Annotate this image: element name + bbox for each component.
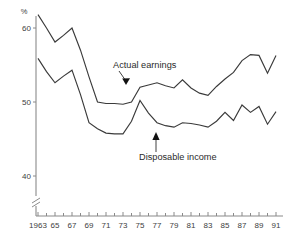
annotation-label-disposable-income: Disposable income	[139, 152, 217, 162]
axis-break-icon	[32, 198, 40, 207]
annotation-disposable-income: Disposable income	[139, 132, 217, 162]
x-tick-label-73: 73	[119, 221, 128, 230]
annotation-actual-earnings: Actual earnings	[113, 60, 177, 85]
y-axis-unit-label: %	[21, 7, 28, 16]
x-tick-label-89: 89	[255, 221, 264, 230]
annotation-label-actual-earnings: Actual earnings	[113, 60, 177, 70]
y-tick-label-40: 40	[22, 172, 31, 181]
x-tick-label-83: 83	[204, 221, 213, 230]
y-tick-label-50: 50	[22, 98, 31, 107]
line-chart: % 60 50 40 19636567697173757779818385878…	[0, 0, 289, 239]
x-tick-label-69: 69	[85, 221, 94, 230]
x-tick-label-75: 75	[136, 221, 145, 230]
x-tick-label-79: 79	[170, 221, 179, 230]
annotation-arrow-disposable-income	[152, 132, 159, 140]
x-axis-ticks-and-labels: 19636567697173757779818385878991	[29, 212, 281, 230]
x-tick-label-87: 87	[238, 221, 247, 230]
x-tick-label-71: 71	[102, 221, 111, 230]
x-tick-label-67: 67	[68, 221, 77, 230]
x-tick-label-81: 81	[187, 221, 196, 230]
x-tick-label-65: 65	[51, 221, 60, 230]
annotation-arrow-actual-earnings	[122, 78, 130, 85]
x-tick-label-85: 85	[221, 221, 230, 230]
x-tick-label-77: 77	[153, 221, 162, 230]
chart-container: % 60 50 40 19636567697173757779818385878…	[0, 0, 289, 239]
x-tick-label-1963: 1963	[29, 221, 47, 230]
y-tick-label-60: 60	[22, 24, 31, 33]
x-tick-label-91: 91	[272, 221, 281, 230]
